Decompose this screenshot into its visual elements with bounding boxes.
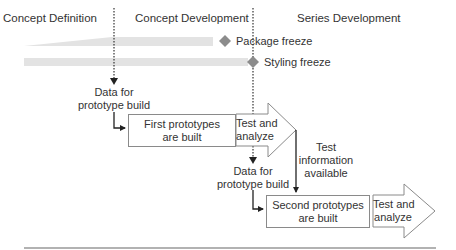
styling-freeze-bar: [24, 58, 248, 66]
styling-freeze-label: Styling freeze: [264, 56, 331, 68]
data-for-build-1-line2: prototype build: [64, 99, 164, 112]
test-analyze-1-line2: analyze: [236, 130, 274, 143]
data-for-build-2-line2: prototype build: [203, 178, 303, 191]
test-analyze-1-label: Test and analyze: [236, 117, 274, 143]
l-arrow-1: [114, 112, 125, 128]
data-for-build-1: Data for prototype build: [64, 86, 164, 112]
package-freeze-label: Package freeze: [236, 35, 312, 47]
test-analyze-2-line2: analyze: [373, 211, 413, 224]
test-info-label: Test information available: [296, 141, 356, 180]
test-info-line3: available: [296, 167, 356, 180]
first-prototypes-line1: First prototypes: [144, 118, 220, 131]
first-prototypes-line2: are built: [144, 131, 220, 144]
phase-series-development: Series Development: [297, 12, 401, 24]
test-info-line2: information: [296, 154, 356, 167]
test-analyze-2-line1: Test and: [373, 198, 413, 211]
data-for-build-2: Data for prototype build: [203, 165, 303, 191]
phase-concept-definition: Concept Definition: [3, 12, 97, 24]
styling-freeze-diamond-icon: [247, 56, 259, 68]
second-prototypes-line1: Second prototypes: [272, 199, 364, 212]
first-prototypes-box: First prototypes are built: [128, 114, 236, 147]
phase-concept-development: Concept Development: [135, 12, 249, 24]
dotted-arrow-head-2: [249, 157, 257, 164]
test-info-line1: Test: [296, 141, 356, 154]
l-arrow-2: [253, 190, 263, 209]
package-freeze-bar: [24, 37, 213, 46]
second-prototypes-line2: are built: [272, 212, 364, 225]
dotted-arrow-head-1: [110, 78, 118, 85]
data-for-build-1-line1: Data for: [64, 86, 164, 99]
test-analyze-2-label: Test and analyze: [373, 198, 413, 224]
package-freeze-diamond-icon: [219, 35, 231, 47]
data-for-build-2-line1: Data for: [203, 165, 303, 178]
second-prototypes-box: Second prototypes are built: [266, 195, 370, 228]
test-analyze-1-line1: Test and: [236, 117, 274, 130]
